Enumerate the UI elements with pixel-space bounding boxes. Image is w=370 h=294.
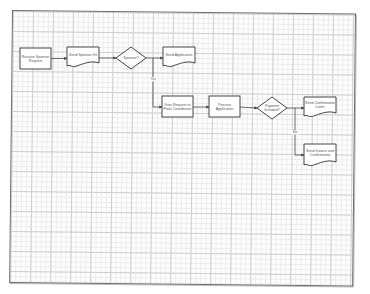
node-label: Payment: [265, 104, 279, 108]
node-label: Sponsor?: [123, 56, 138, 60]
connector-process-to-payment: [240, 107, 257, 108]
node-label: Letter: [315, 105, 325, 109]
node-payment[interactable]: PaymentIncluded?: [257, 97, 287, 119]
node-label: Application: [216, 107, 234, 111]
edge-label-no: No: [293, 130, 297, 134]
connector-sponsor-to-give: [153, 58, 162, 107]
node-sendkit[interactable]: Send Sponsor Kit: [67, 47, 99, 67]
node-sendapp[interactable]: Send Application: [163, 47, 195, 67]
node-invoice[interactable]: Send Invoice andConfirmation: [304, 144, 336, 166]
node-process[interactable]: ProcessApplication: [209, 96, 240, 117]
node-label: Receive Sponsor: [22, 55, 50, 59]
node-label: Send Invoice and: [306, 149, 334, 153]
node-label: Send Sponsor Kit: [69, 53, 97, 57]
flowchart-canvas: YesNo Receive SponsorRequestSend Sponsor…: [0, 0, 370, 294]
node-sponsor[interactable]: Sponsor?: [116, 47, 146, 69]
node-label: Confirmation: [310, 153, 330, 157]
node-label: Process: [218, 103, 231, 107]
node-confirm[interactable]: Send ConfirmationLetter: [304, 97, 336, 117]
node-label: Send Application: [166, 53, 193, 57]
edge-label-yes: Yes: [150, 77, 156, 81]
node-receive[interactable]: Receive SponsorRequest: [20, 48, 51, 69]
node-label: Request: [29, 59, 42, 63]
node-label: Give Request to: [165, 103, 191, 107]
node-label: Included?: [264, 108, 280, 112]
node-label: Send Confirmation: [305, 101, 335, 105]
node-give[interactable]: Give Request toFloor Coordinator: [162, 96, 193, 117]
node-label: Floor Coordinator: [164, 107, 193, 111]
